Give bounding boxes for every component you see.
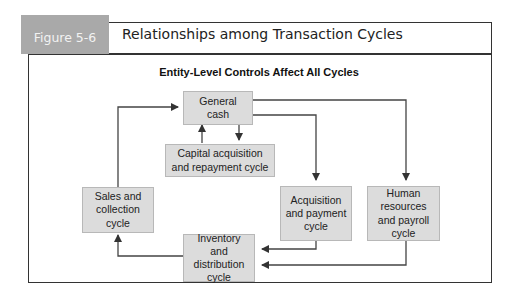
node-capital-acquisition-cycle: Capital acquisition and repayment cycle — [165, 144, 275, 177]
node-human-resources-payroll-cycle: Human resources and payroll cycle — [367, 186, 440, 241]
node-general-cash: General cash — [183, 91, 253, 125]
node-inventory-distribution-cycle: Inventory and distribution cycle — [183, 234, 255, 282]
figure-label: Figure 5-6 — [21, 15, 109, 54]
node-acquisition-payment-cycle: Acquisition and payment cycle — [280, 186, 352, 241]
node-sales-collection-cycle: Sales and collection cycle — [82, 187, 154, 233]
